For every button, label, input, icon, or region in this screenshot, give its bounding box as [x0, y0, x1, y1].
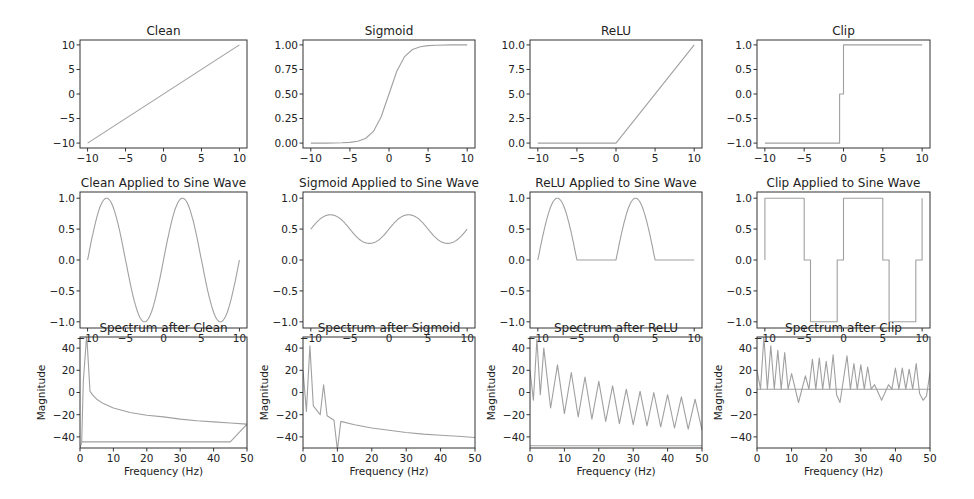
- x-tick-label: 0: [754, 452, 761, 464]
- axes-frame: [757, 337, 930, 448]
- x-axis-label: Frequency (Hz): [804, 465, 883, 477]
- y-axis-label: Magnitude: [485, 365, 497, 421]
- x-tick-label: 40: [889, 452, 902, 464]
- x-tick-label: 20: [592, 452, 605, 464]
- x-tick-label: −10: [527, 152, 549, 164]
- y-tick-label: 20: [739, 364, 752, 376]
- x-tick-label: 0: [160, 152, 167, 164]
- plot-line: [88, 45, 240, 143]
- x-tick-label: 0: [613, 152, 620, 164]
- x-axis-label: Frequency (Hz): [349, 465, 428, 477]
- x-tick-label: 30: [174, 452, 187, 464]
- x-tick-label: 50: [468, 452, 481, 464]
- subplot-relu-sine: −10−50510−1.0−0.50.00.51.0ReLU Applied t…: [500, 176, 703, 344]
- x-tick-label: 10: [460, 332, 473, 344]
- y-tick-label: 40: [739, 342, 752, 354]
- y-tick-label: −1.0: [500, 316, 526, 328]
- y-tick-label: 10.0: [502, 39, 525, 51]
- x-tick-label: 10: [107, 452, 120, 464]
- y-tick-label: −20: [730, 409, 752, 421]
- y-tick-label: 0.5: [735, 63, 752, 75]
- y-tick-label: 0: [68, 386, 75, 398]
- subplot-spectrum-clip: 01020304050−40−2002040Spectrum after Cli…: [712, 321, 937, 477]
- x-tick-label: 30: [627, 452, 640, 464]
- subplot-title: Clip Applied to Sine Wave: [767, 176, 921, 190]
- x-tick-label: 0: [840, 152, 847, 164]
- subplot-title: Clip: [832, 24, 855, 38]
- y-tick-label: 0.25: [275, 112, 298, 124]
- plot-line: [538, 198, 694, 260]
- axes-frame: [530, 337, 702, 448]
- subplot-title: Sigmoid Applied to Sine Wave: [299, 176, 479, 190]
- subplot-title: ReLU: [601, 24, 631, 38]
- y-tick-label: 5: [68, 63, 75, 75]
- y-tick-label: 1.00: [275, 39, 298, 51]
- y-tick-label: 0: [68, 88, 75, 100]
- y-tick-label: 1.0: [58, 192, 75, 204]
- y-tick-label: 0: [518, 386, 525, 398]
- subplot-spectrum-clean: 01020304050−40−2002040Spectrum after Cle…: [35, 321, 254, 477]
- y-tick-label: 40: [285, 342, 298, 354]
- x-tick-label: 10: [460, 152, 473, 164]
- x-tick-label: 0: [77, 452, 84, 464]
- axes-frame: [303, 192, 475, 328]
- plot-line: [311, 45, 467, 143]
- y-tick-label: −20: [503, 409, 525, 421]
- x-tick-label: 40: [434, 452, 447, 464]
- x-tick-label: −10: [754, 152, 776, 164]
- plot-line: [88, 198, 240, 322]
- y-tick-label: 0.5: [508, 223, 525, 235]
- plot-line: [765, 198, 922, 322]
- x-tick-label: 10: [558, 452, 571, 464]
- y-tick-label: 0.5: [58, 223, 75, 235]
- x-tick-label: 40: [661, 452, 674, 464]
- y-tick-label: −20: [53, 409, 75, 421]
- x-tick-label: 10: [687, 332, 700, 344]
- y-tick-label: −10: [53, 137, 75, 149]
- axes-frame: [80, 337, 247, 448]
- y-tick-label: 40: [62, 342, 75, 354]
- subplot-clean: −10−50510−10−50510Clean: [53, 24, 247, 164]
- x-tick-label: −5: [796, 152, 811, 164]
- figure: −10−50510−10−50510Clean−10−505100.000.25…: [0, 0, 974, 499]
- x-tick-label: 10: [687, 152, 700, 164]
- subplot-title: Clean Applied to Sine Wave: [81, 176, 246, 190]
- y-tick-label: 0: [291, 386, 298, 398]
- y-tick-label: 0.0: [735, 88, 752, 100]
- y-tick-label: −0.5: [50, 285, 76, 297]
- plot-line: [80, 335, 247, 448]
- y-tick-label: −20: [276, 409, 298, 421]
- x-tick-label: 50: [695, 452, 708, 464]
- y-tick-label: 0.0: [58, 254, 75, 266]
- y-tick-label: 0.50: [275, 88, 298, 100]
- plot-line: [530, 339, 702, 446]
- x-tick-label: −10: [77, 152, 99, 164]
- x-tick-label: 0: [527, 452, 534, 464]
- subplot-title: Clean: [146, 24, 180, 38]
- y-tick-label: 2.5: [508, 112, 525, 124]
- subplot-clip: −10−50510−1.0−0.50.00.51.0Clip: [727, 24, 931, 164]
- x-tick-label: 10: [915, 152, 928, 164]
- x-tick-label: −5: [118, 152, 133, 164]
- y-tick-label: 20: [512, 364, 525, 376]
- plot-line: [757, 337, 930, 403]
- subplot-relu: −10−505100.02.55.07.510.0ReLU: [502, 24, 702, 164]
- y-tick-label: 0.5: [735, 223, 752, 235]
- y-tick-label: −1.0: [727, 137, 753, 149]
- y-tick-label: −0.5: [273, 285, 299, 297]
- y-tick-label: 0.0: [735, 254, 752, 266]
- y-tick-label: −0.5: [727, 285, 753, 297]
- subplot-title: Sigmoid: [365, 24, 414, 38]
- x-tick-label: 30: [400, 452, 413, 464]
- subplot-spectrum-sigmoid: 01020304050−40−2002040Spectrum after Sig…: [258, 321, 482, 477]
- y-tick-label: −40: [503, 431, 525, 443]
- x-tick-label: 10: [331, 452, 344, 464]
- y-tick-label: 0.0: [281, 254, 298, 266]
- y-tick-label: −0.5: [500, 285, 526, 297]
- y-tick-label: 1.0: [508, 192, 525, 204]
- subplot-title: Spectrum after ReLU: [554, 321, 678, 335]
- x-tick-label: 10: [915, 332, 928, 344]
- y-tick-label: 1.0: [735, 39, 752, 51]
- subplot-clip-sine: −10−50510−1.0−0.50.00.51.0Clip Applied t…: [727, 176, 931, 344]
- x-tick-label: 10: [233, 332, 246, 344]
